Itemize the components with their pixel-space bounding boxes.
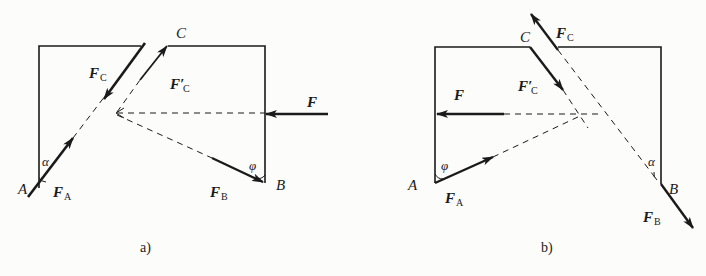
svg-text:C: C	[100, 72, 107, 83]
svg-text:F: F	[52, 184, 63, 200]
angle-phi-label-a: φ	[249, 158, 256, 173]
angle-alpha-label-b: α	[648, 154, 656, 169]
point-A-label-b: A	[407, 177, 418, 193]
line-of-action-C-a	[117, 80, 140, 112]
point-B-label-a: B	[276, 177, 285, 193]
label-FA-b: F A	[444, 190, 464, 208]
caption-b: b)	[541, 240, 553, 256]
svg-text:A: A	[64, 191, 72, 202]
svg-text:B: B	[221, 191, 228, 202]
svg-text:F′: F′	[517, 78, 532, 94]
line-of-action-C-b	[558, 50, 657, 180]
point-A-label-a: A	[17, 181, 28, 197]
label-FCprime-a: F′ C	[169, 76, 190, 94]
label-FB-b: F B	[642, 209, 661, 227]
label-F-a: F	[306, 94, 317, 110]
svg-text:F: F	[88, 65, 99, 81]
point-B-label-b: B	[669, 181, 678, 197]
figure-b: A B C φ α F A F C F′ C F F B b)	[407, 14, 693, 256]
svg-text:C: C	[531, 85, 538, 96]
angle-phi-arc-b	[435, 174, 443, 179]
line-of-action-B-a	[117, 115, 212, 158]
point-C-label-a: C	[176, 25, 187, 41]
label-FCprime-b: F′ C	[517, 78, 538, 96]
line-of-action-A-b	[493, 116, 580, 157]
label-F-b: F	[453, 87, 464, 103]
svg-text:C: C	[183, 83, 190, 94]
caption-a: a)	[140, 240, 151, 256]
point-C-label-b: C	[520, 29, 531, 45]
force-FCprime-arrow-a	[140, 46, 167, 80]
right-member-b	[558, 47, 661, 184]
force-FA-arrow-a	[28, 138, 73, 197]
force-diagram-figure: A B C α φ F A F C F′ C F F B a)	[0, 0, 706, 276]
svg-text:B: B	[654, 216, 661, 227]
svg-text:F: F	[209, 184, 220, 200]
label-FC-b: F C	[555, 25, 574, 43]
force-FC-arrow-b	[531, 14, 558, 50]
figure-a: A B C α φ F A F C F′ C F F B a)	[17, 25, 328, 256]
line-of-action-A-a	[73, 96, 105, 138]
force-FCprime-arrow-b	[530, 47, 563, 90]
svg-text:F: F	[642, 209, 653, 225]
label-FC-a: F C	[88, 65, 107, 83]
angle-alpha-arc-b	[654, 172, 657, 180]
angle-phi-arc-a	[256, 175, 265, 178]
label-FA-a: F A	[52, 184, 72, 202]
svg-text:F: F	[444, 190, 455, 206]
svg-text:F: F	[453, 87, 464, 103]
angle-phi-label-b: φ	[441, 158, 448, 173]
svg-text:A: A	[456, 197, 464, 208]
force-FC-arrow-a	[104, 43, 145, 99]
svg-text:C: C	[567, 32, 574, 43]
svg-text:F: F	[306, 94, 317, 110]
label-FB-a: F B	[209, 184, 228, 202]
svg-text:F′: F′	[169, 76, 184, 92]
svg-text:F: F	[555, 25, 566, 41]
angle-alpha-label-a: α	[42, 154, 50, 169]
diagram-canvas: A B C α φ F A F C F′ C F F B a)	[0, 0, 706, 276]
